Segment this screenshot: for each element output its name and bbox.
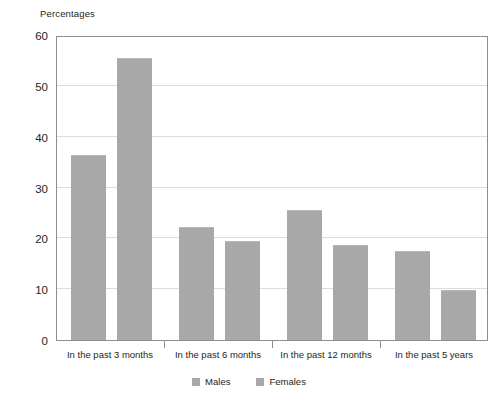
x-axis-category-label: In the past 6 months (175, 349, 261, 360)
chart-legend: MalesFemales (0, 376, 498, 387)
y-axis-caption: Percentages (40, 8, 95, 19)
y-tick-label: 30 (2, 183, 48, 195)
x-axis-category-label: In the past 12 months (280, 349, 371, 360)
bar (117, 58, 152, 340)
bar (441, 290, 476, 340)
x-axis-tick (380, 341, 381, 348)
y-tick-label: 50 (2, 81, 48, 93)
legend-item[interactable]: Males (192, 376, 230, 387)
bar (395, 251, 430, 340)
y-tick-label: 40 (2, 132, 48, 144)
bar-chart: Percentages 0102030405060 In the past 3 … (0, 0, 498, 405)
x-axis-tick (164, 341, 165, 348)
x-axis-category-label: In the past 5 years (395, 349, 473, 360)
y-tick-label: 60 (2, 30, 48, 42)
bars-layer (57, 37, 487, 340)
bar (333, 245, 368, 340)
x-axis-tick (272, 341, 273, 348)
legend-swatch-icon (256, 378, 264, 386)
legend-item[interactable]: Females (256, 376, 305, 387)
plot-area (56, 36, 488, 341)
y-tick-label: 10 (2, 284, 48, 296)
y-axis-tick-labels: 0102030405060 (0, 36, 48, 341)
legend-label: Males (205, 376, 230, 387)
x-axis-category-label: In the past 3 months (67, 349, 153, 360)
legend-swatch-icon (192, 378, 200, 386)
y-tick-label: 20 (2, 233, 48, 245)
bar (287, 210, 322, 340)
y-tick-label: 0 (2, 335, 48, 347)
bar (71, 155, 106, 340)
bar (179, 227, 214, 340)
legend-label: Females (269, 376, 305, 387)
bar (225, 241, 260, 340)
